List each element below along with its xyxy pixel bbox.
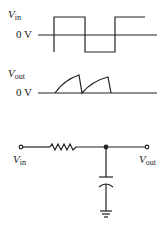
input-zero-label: 0 V (16, 29, 32, 40)
resistor (50, 144, 78, 150)
output-waveform (38, 75, 157, 93)
input-waveform-label: Vin (8, 9, 21, 22)
output-terminal[interactable] (145, 145, 149, 149)
circuit-input-label: Vin (13, 154, 26, 167)
output-zero-label: 0 V (16, 87, 32, 98)
input-terminal[interactable] (19, 145, 23, 149)
output-charge-curve (55, 75, 111, 93)
circuit-output-label: Vout (139, 154, 156, 167)
output-waveform-label: Vout (8, 68, 25, 81)
input-waveform (38, 17, 157, 52)
rc-circuit (19, 144, 149, 217)
